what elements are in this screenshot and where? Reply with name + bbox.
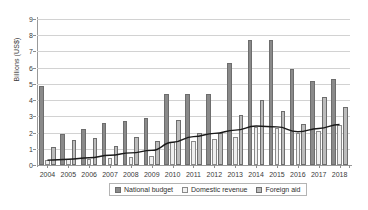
y-axis-tick-mark	[33, 84, 36, 85]
y-axis-tick-label: 2	[29, 129, 33, 136]
x-axis-tick-label: 2006	[81, 171, 97, 178]
x-axis-tick-mark	[277, 165, 278, 168]
x-axis-tick-mark	[47, 165, 48, 168]
x-axis-tick-label: 2018	[332, 171, 348, 178]
legend-label-foreign-aid: Foreign aid	[265, 186, 300, 193]
x-axis-tick-mark	[173, 165, 174, 168]
x-axis-tick-label: 2014	[248, 171, 264, 178]
x-axis-line	[37, 165, 352, 166]
y-axis-tick-mark	[33, 149, 36, 150]
y-axis-title: Billions (US$)	[13, 20, 20, 100]
y-axis-tick-mark	[33, 116, 36, 117]
x-axis-tick-label: 2011	[186, 171, 201, 178]
chart-legend: National budget Domestic revenue Foreign…	[109, 183, 307, 196]
legend-swatch-national-budget	[115, 187, 121, 193]
y-axis-tick-mark	[33, 19, 36, 20]
x-axis-tick-label: 2007	[102, 171, 118, 178]
x-axis-tick-label: 2004	[40, 171, 56, 178]
y-axis-tick-label: 0	[29, 162, 33, 169]
x-axis-tick-mark	[256, 165, 257, 168]
y-axis-tick-label: 9	[29, 16, 33, 23]
x-axis-tick-mark	[68, 165, 69, 168]
y-axis-tick-label: 7	[29, 48, 33, 55]
y-axis-tick-label: 4	[29, 97, 33, 104]
x-axis-tick-label: 2017	[311, 171, 327, 178]
y-axis-tick-mark	[33, 35, 36, 36]
x-axis-tick-mark	[152, 165, 153, 168]
x-axis-tick-label: 2010	[165, 171, 181, 178]
legend-item-national-budget: National budget	[115, 186, 173, 193]
x-axis-tick-mark	[340, 165, 341, 168]
x-axis-tick-mark	[298, 165, 299, 168]
y-axis-tick-mark	[33, 68, 36, 69]
trend-line-path	[47, 124, 339, 160]
legend-item-domestic-revenue: Domestic revenue	[182, 186, 247, 193]
trend-line	[37, 19, 350, 165]
y-axis-tick-label: 6	[29, 64, 33, 71]
x-axis-tick-label: 2012	[207, 171, 223, 178]
y-axis-tick-mark	[33, 100, 36, 101]
x-axis-tick-label: 2005	[60, 171, 76, 178]
plot-area: 0123456789 20042005200620072008200920102…	[37, 19, 350, 165]
x-axis-tick-mark	[319, 165, 320, 168]
x-axis-tick-label: 2009	[144, 171, 160, 178]
x-axis-tick-label: 2008	[123, 171, 139, 178]
chart-container: Billions (US$) 0123456789 20042005200620…	[0, 0, 368, 210]
legend-swatch-foreign-aid	[256, 187, 262, 193]
x-axis-tick-label: 2016	[290, 171, 306, 178]
y-axis-tick-label: 5	[29, 80, 33, 87]
x-axis-tick-label: 2015	[269, 171, 285, 178]
y-axis-tick-label: 8	[29, 32, 33, 39]
x-axis-tick-mark	[131, 165, 132, 168]
legend-label-national-budget: National budget	[124, 186, 173, 193]
y-axis-tick-label: 1	[29, 145, 33, 152]
legend-label-domestic-revenue: Domestic revenue	[191, 186, 247, 193]
x-axis-tick-mark	[214, 165, 215, 168]
y-axis-tick-mark	[33, 165, 36, 166]
x-axis-tick-mark	[349, 165, 350, 168]
y-axis-tick-mark	[33, 51, 36, 52]
x-axis-tick-mark	[110, 165, 111, 168]
legend-swatch-domestic-revenue	[182, 187, 188, 193]
x-axis-tick-label: 2013	[227, 171, 243, 178]
x-axis-tick-mark	[193, 165, 194, 168]
x-axis-tick-mark	[89, 165, 90, 168]
legend-item-foreign-aid: Foreign aid	[256, 186, 300, 193]
y-axis-tick-mark	[33, 133, 36, 134]
y-axis-tick-label: 3	[29, 113, 33, 120]
x-axis-tick-mark	[235, 165, 236, 168]
